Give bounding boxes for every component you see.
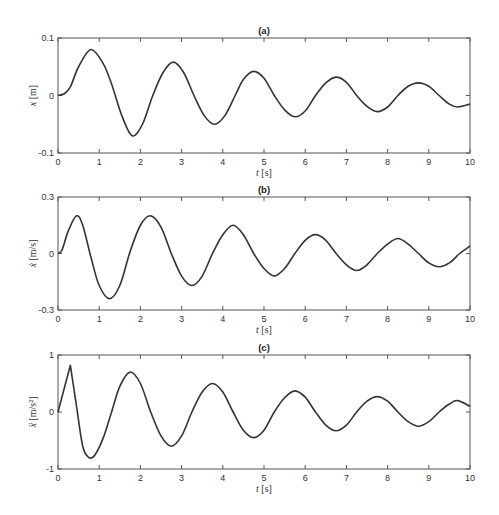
subplot-c-acceleration: 012345678910-101(c)t [s]ẍ [m/s²] [27,342,475,494]
y-tick-label: 1 [49,350,54,360]
x-tick-label: 4 [220,314,225,324]
x-tick-label: 3 [179,314,184,324]
x-tick-label: 6 [303,473,308,483]
y-tick-label: 0.1 [41,33,54,43]
x-tick-label: 7 [344,473,349,483]
x-tick-label: 8 [385,314,390,324]
data-line [58,365,470,458]
x-tick-label: 4 [220,473,225,483]
x-tick-label: 9 [426,157,431,167]
x-tick-label: 7 [344,157,349,167]
x-tick-label: 8 [385,473,390,483]
x-tick-label: 10 [465,314,475,324]
y-axis-label: ẋ [m/s] [27,239,38,268]
x-axis-label: t [s] [256,324,272,335]
x-tick-label: 1 [97,314,102,324]
x-tick-label: 10 [465,157,475,167]
x-tick-label: 9 [426,473,431,483]
subplot-a-position: 012345678910-0.100.1(a)t [s]x [m] [27,25,475,178]
x-tick-label: 2 [138,157,143,167]
data-line [58,49,470,135]
x-tick-label: 6 [303,314,308,324]
figure: 012345678910-0.100.1(a)t [s]x [m] 012345… [0,0,499,515]
x-tick-label: 10 [465,473,475,483]
y-tick-label: -0.1 [38,148,54,158]
data-line [58,216,470,299]
x-tick-label: 3 [179,473,184,483]
y-tick-label: -1 [46,464,54,474]
y-axis-label: x [m] [27,85,38,107]
x-tick-label: 9 [426,314,431,324]
x-tick-label: 0 [55,473,60,483]
x-tick-label: 2 [138,314,143,324]
axes-box [58,38,470,153]
x-tick-label: 0 [55,314,60,324]
x-tick-label: 5 [261,314,266,324]
x-tick-label: 1 [97,473,102,483]
x-tick-label: 6 [303,157,308,167]
x-tick-label: 8 [385,157,390,167]
y-tick-label: -0.3 [38,305,54,315]
y-axis-label: ẍ [m/s²] [27,396,38,428]
x-axis-label: t [s] [256,483,272,494]
subplot-b-velocity: 012345678910-0.300.3(b)t [s]ẋ [m/s] [27,184,475,335]
subplot-title: (c) [258,342,270,353]
x-tick-label: 0 [55,157,60,167]
x-tick-label: 1 [97,157,102,167]
subplot-title: (b) [258,184,270,195]
axes-box [58,197,470,310]
axes-box [58,355,470,469]
x-tick-label: 4 [220,157,225,167]
y-tick-label: 0 [49,407,54,417]
x-tick-label: 5 [261,157,266,167]
x-tick-label: 5 [261,473,266,483]
x-tick-label: 3 [179,157,184,167]
y-tick-label: 0 [49,249,54,259]
x-tick-label: 7 [344,314,349,324]
x-tick-label: 2 [138,473,143,483]
subplot-title: (a) [258,25,270,36]
y-tick-label: 0 [49,91,54,101]
y-tick-label: 0.3 [41,192,54,202]
x-axis-label: t [s] [256,167,272,178]
